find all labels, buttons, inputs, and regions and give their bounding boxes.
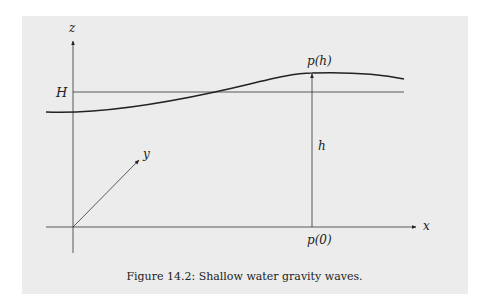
top-point-label: p(h) xyxy=(307,55,332,67)
bottom-point-label: p(0) xyxy=(307,234,332,246)
y-axis xyxy=(73,160,139,227)
z-axis-label: z xyxy=(69,22,75,34)
height-label: h xyxy=(318,140,326,152)
x-axis-label: x xyxy=(423,220,430,232)
mean-depth-label: H xyxy=(56,86,67,99)
y-axis-label: y xyxy=(143,148,150,160)
diagram-canvas xyxy=(0,0,489,306)
figure-caption: Figure 14.2: Shallow water gravity waves… xyxy=(0,270,489,283)
wave-surface xyxy=(46,73,404,113)
